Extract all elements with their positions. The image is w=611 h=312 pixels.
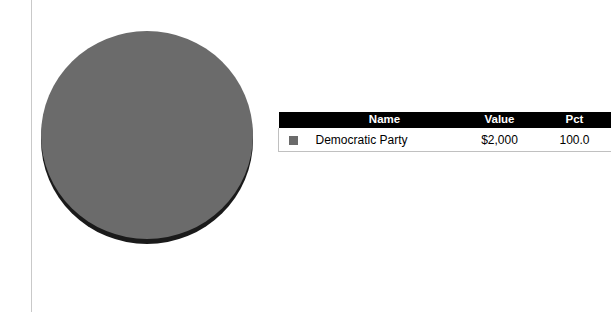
legend-table-body: Democratic Party $2,000 100.0 [279,128,611,152]
legend-cell-pct: 100.0 [539,128,611,152]
pie-slice-democratic-party[interactable] [41,31,253,239]
column-header-name[interactable]: Name [309,112,461,128]
column-header-value[interactable]: Value [461,112,539,128]
pie-chart-svg [38,22,256,244]
table-row[interactable]: Democratic Party $2,000 100.0 [279,128,611,152]
legend-color-swatch-icon [289,136,298,145]
legend-table: Name Value Pct Democratic Party $2,000 1… [278,112,611,152]
column-header-pct[interactable]: Pct [539,112,611,128]
legend-header-row: Name Value Pct [279,112,611,128]
legend-cell-value: $2,000 [461,128,539,152]
legend-table-head: Name Value Pct [279,112,611,128]
page-margin-rule [31,0,32,312]
column-header-swatch [279,112,309,128]
legend-swatch-cell [279,128,309,152]
legend-cell-name: Democratic Party [309,128,461,152]
pie-chart [38,22,256,244]
